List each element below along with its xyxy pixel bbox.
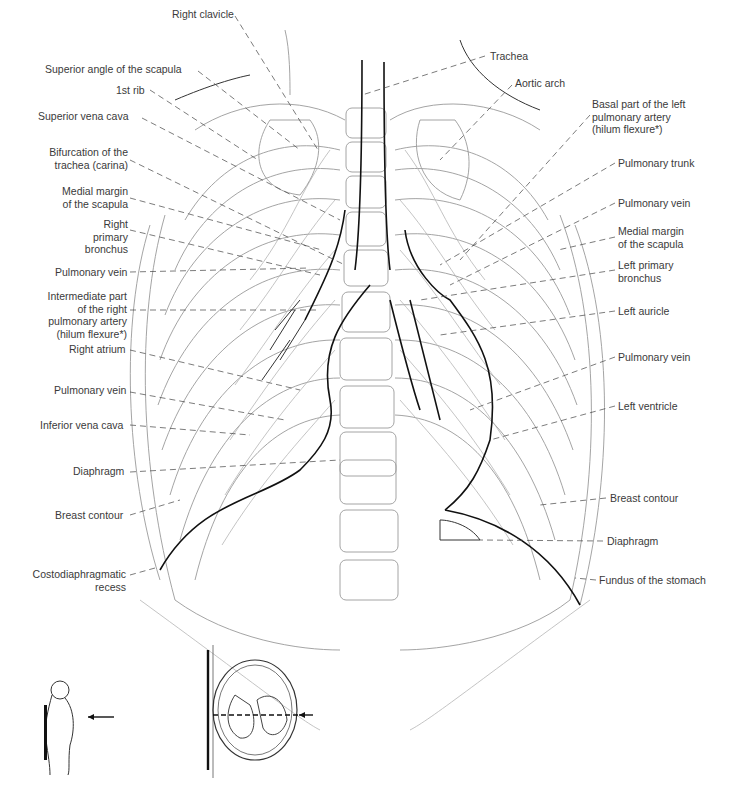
label-medial-margin-scapula-left: Medial margin of the scapula — [618, 225, 684, 250]
label-breast-contour-right: Breast contour — [55, 509, 123, 522]
label-diaphragm-left: Diaphragm — [607, 535, 658, 548]
patient-side-view-icon — [20, 640, 130, 780]
label-medial-margin-scapula-right: Medial margin of the scapula — [62, 185, 128, 210]
label-superior-angle-scapula: Superior angle of the scapula — [45, 63, 182, 76]
label-costodiaphragmatic-recess: Costodiaphragmatic recess — [30, 568, 126, 593]
shoulder-girdle — [175, 30, 540, 200]
label-carina: Bifurcation of the trachea (carina) — [48, 146, 128, 171]
label-inferior-vena-cava: Inferior vena cava — [40, 419, 123, 432]
label-pulmonary-trunk: Pulmonary trunk — [618, 157, 694, 170]
label-right-primary-bronchus: Right primary bronchus — [66, 218, 128, 256]
label-superior-vena-cava: Superior vena cava — [38, 110, 128, 123]
label-first-rib: 1st rib — [116, 84, 145, 97]
label-diaphragm-right: Diaphragm — [73, 465, 124, 478]
axial-beam-diagram-icon — [195, 630, 315, 780]
label-pulmonary-vein-right-upper: Pulmonary vein — [55, 266, 127, 279]
label-left-auricle: Left auricle — [618, 305, 669, 318]
label-basal-left-pa: Basal part of the left pulmonary artery … — [592, 98, 685, 136]
label-aortic-arch: Aortic arch — [515, 77, 565, 90]
label-pulmonary-vein-right-lower: Pulmonary vein — [54, 384, 126, 397]
label-trachea: Trachea — [490, 50, 528, 63]
spine — [340, 108, 398, 600]
label-pulmonary-vein-left-lower: Pulmonary vein — [618, 351, 690, 364]
label-left-ventricle: Left ventricle — [618, 400, 678, 413]
label-fundus-stomach: Fundus of the stomach — [599, 574, 706, 587]
label-breast-contour-left: Breast contour — [610, 492, 678, 505]
right-ribs — [158, 146, 340, 580]
label-pulmonary-vein-left-upper: Pulmonary vein — [618, 197, 690, 210]
label-right-atrium: Right atrium — [69, 343, 126, 356]
label-intermediate-pa: Intermediate part of the right pulmonary… — [47, 290, 127, 340]
label-right-clavicle: Right clavicle — [172, 8, 234, 21]
label-left-primary-bronchus: Left primary bronchus — [618, 259, 673, 284]
